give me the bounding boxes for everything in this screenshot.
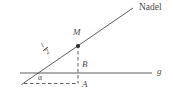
needle-line-label: Nadel — [139, 3, 162, 13]
line-g-label: g — [157, 67, 162, 76]
geometry-figure: Nadel M B A g α l 2 — [0, 0, 173, 94]
point-a-label: A — [82, 80, 88, 89]
midpoint-label: M — [73, 28, 81, 37]
point-b-label: B — [82, 60, 88, 69]
midpoint-marker — [76, 44, 80, 48]
angle-label: α — [38, 74, 42, 82]
